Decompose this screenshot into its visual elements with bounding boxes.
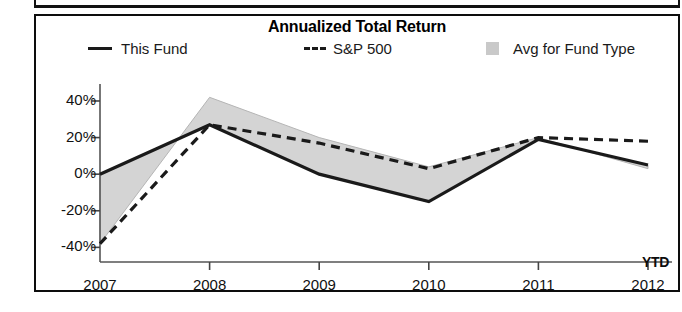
top-panel-fragment bbox=[34, 0, 680, 8]
x-axis-tick-labels: 200720082009201020112012 bbox=[36, 16, 682, 294]
x-tick-label: 2008 bbox=[175, 276, 245, 293]
x-tick-label: 2007 bbox=[65, 276, 135, 293]
x-tick-label: 2012 bbox=[613, 276, 682, 293]
x-axis-ytd-label: YTD bbox=[642, 254, 669, 270]
x-tick-label: 2009 bbox=[284, 276, 354, 293]
plot-area: 40%20%0%-20%-40% 20072008200920102011201… bbox=[36, 16, 682, 294]
x-tick-label: 2011 bbox=[503, 276, 573, 293]
x-tick-label: 2010 bbox=[394, 276, 464, 293]
annualized-total-return-chart-panel: Annualized Total Return This Fund S&P 50… bbox=[34, 14, 680, 292]
